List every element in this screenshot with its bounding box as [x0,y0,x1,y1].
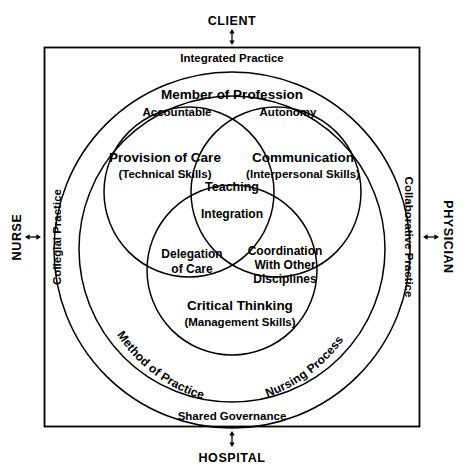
arrow-right-icon [423,234,439,239]
venn-overlap-coordination-line3: Disciplines [253,272,317,286]
venn-right-title: Communication [252,150,354,165]
arrow-top-icon [229,29,234,45]
venn-left-title: Provision of Care [109,150,221,165]
ring-label-method-of-practice: Method of Practice [114,328,206,402]
arrow-left-icon [25,234,41,239]
stakeholder-label-top: CLIENT [208,14,257,28]
venn-bottom-title: Critical Thinking [187,298,293,313]
stakeholder-label-right: PHYSICIAN [441,200,455,273]
frame-label-bottom: Shared Governance [178,410,287,422]
venn-right-subtitle: (Interpersonal Skills) [246,168,360,180]
venn-left-subtitle: (Technical Skills) [118,168,211,180]
ring-label-autonomy: Autonomy [260,106,317,118]
venn-overlap-integration: Integration [201,207,263,221]
venn-overlap-teaching: Teaching [205,180,259,194]
venn-overlap-delegation-line1: Delegation [161,247,222,261]
frame-label-top: Integrated Practice [180,52,284,64]
integrated-practice-diagram: CLIENT Integrated Practice Shared Govern… [0,0,465,474]
arrow-bottom-icon [229,431,234,447]
ring-label-accountable: Accountable [142,106,211,118]
diagram-canvas: CLIENT Integrated Practice Shared Govern… [0,0,465,474]
venn-overlap-delegation-line2: of Care [171,262,213,276]
stakeholder-label-left: NURSE [10,214,24,261]
venn-overlap-coordination-line1: Coordination [248,244,323,258]
venn-bottom-subtitle: (Management Skills) [184,316,295,328]
ring-label-member-of-profession: Member of Profession [161,87,303,102]
venn-overlap-coordination-line2: With Other [254,258,316,272]
stakeholder-label-bottom: HOSPITAL [198,451,265,465]
frame-label-left: Collegial Practice [51,189,63,285]
outer-circle [54,72,410,428]
